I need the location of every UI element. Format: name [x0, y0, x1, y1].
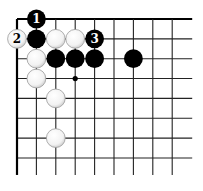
black-stone	[46, 49, 65, 68]
star-points	[73, 76, 78, 81]
black-stone-move-1: 1	[27, 10, 46, 29]
go-board-diagram: 123	[0, 0, 203, 191]
white-stone	[66, 29, 85, 48]
black-stone	[124, 49, 143, 68]
white-stone	[46, 129, 65, 148]
black-stone-move-3: 3	[85, 29, 104, 48]
black-stone	[85, 49, 104, 68]
move-number-label: 2	[13, 32, 21, 46]
move-number-label: 1	[32, 12, 40, 26]
white-stone-move-2: 2	[8, 29, 27, 48]
white-stone	[46, 89, 65, 108]
black-stone	[66, 49, 85, 68]
black-stone	[27, 29, 46, 48]
move-number-label: 3	[90, 32, 98, 46]
star-point-marker	[73, 76, 78, 81]
white-stone	[27, 69, 46, 88]
go-board-canvas: 123	[0, 0, 203, 191]
white-stone	[27, 49, 46, 68]
white-stone	[46, 29, 65, 48]
